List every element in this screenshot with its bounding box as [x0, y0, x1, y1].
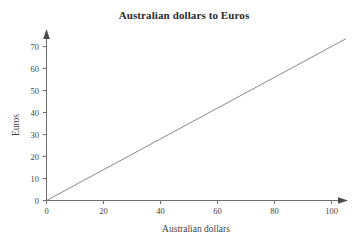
- x-tick-label-0: 0: [44, 206, 48, 216]
- y-tick-label-70: 70: [31, 42, 40, 52]
- x-tick-label-40: 40: [156, 206, 165, 216]
- y-tick-label-10: 10: [31, 174, 40, 184]
- x-tick-label-80: 80: [270, 206, 279, 216]
- x-tick-label-100: 100: [325, 206, 338, 216]
- y-tick-label-20: 20: [31, 152, 40, 162]
- x-tick-label-60: 60: [213, 206, 222, 216]
- y-tick-label-30: 30: [31, 130, 40, 140]
- y-tick-label-60: 60: [31, 64, 40, 74]
- y-tick-label-0: 0: [35, 196, 39, 206]
- y-tick-label-40: 40: [31, 108, 40, 118]
- y-tick-label-50: 50: [31, 86, 40, 96]
- y-axis-title: Euros: [11, 114, 21, 136]
- x-tick-label-20: 20: [99, 206, 108, 216]
- chart-background: [0, 0, 363, 242]
- chart-title: Australian dollars to Euros: [119, 9, 250, 21]
- x-axis-title: Australian dollars: [162, 224, 230, 234]
- conversion-line-chart: Australian dollars to Euros 0 10 20 30 4…: [0, 0, 363, 242]
- chart-container: Australian dollars to Euros 0 10 20 30 4…: [0, 0, 363, 242]
